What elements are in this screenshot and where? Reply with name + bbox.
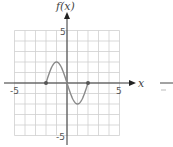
function-graph: f(x) x -5 5 5 -5 (0, 0, 173, 147)
endpoint-dot (44, 81, 48, 85)
x-axis-arrow-icon (129, 80, 136, 86)
x-axis-label: x (138, 77, 145, 90)
y-axis-label: f(x) (55, 0, 75, 13)
y-tick-min: -5 (56, 132, 65, 142)
x-tick-max: 5 (116, 86, 122, 96)
y-tick-max: 5 (60, 27, 66, 37)
x-tick-min: -5 (10, 86, 19, 96)
endpoint-dot (86, 81, 90, 85)
y-axis-arrow-icon (64, 12, 70, 19)
